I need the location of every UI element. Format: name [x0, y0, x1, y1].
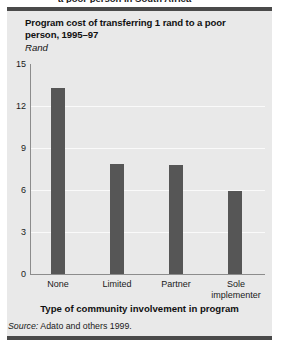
bottom-rule	[7, 336, 272, 340]
y-tick-label: 0	[4, 270, 26, 279]
source-label: Source:	[8, 321, 38, 331]
x-tick-label-limited: Limited	[89, 279, 145, 290]
gridline-9	[30, 148, 265, 149]
plot-area	[30, 64, 265, 275]
y-axis-line	[30, 64, 31, 275]
clipped-caption-text: a poor person in South Africa	[58, 0, 278, 3]
x-tick-label-implementer: implementer	[207, 290, 265, 301]
bar-limited	[110, 164, 124, 274]
bar-none	[51, 88, 65, 274]
y-tick-label: 9	[4, 144, 26, 153]
source-note: Source: Adato and others 1999.	[8, 321, 132, 331]
bar-sole-implementer	[228, 191, 242, 274]
chart-title: Program cost of transferring 1 rand to a…	[25, 17, 257, 40]
y-tick-label: 12	[4, 102, 26, 111]
y-axis-unit-label: Rand	[25, 42, 48, 53]
figure-container: a poor person in South Africa Program co…	[0, 0, 288, 350]
x-tick-label-sole: Sole	[207, 279, 265, 290]
x-tick-label-partner: Partner	[148, 279, 204, 290]
gridline-12	[30, 106, 265, 107]
y-tick-label: 3	[4, 228, 26, 237]
x-axis-title: Type of community involvement in program	[7, 303, 272, 314]
y-tick-label: 6	[4, 186, 26, 195]
bar-partner	[169, 165, 183, 274]
y-axis-tick-labels: 15 12 9 6 3 0	[0, 64, 26, 275]
source-citation: Adato and others 1999.	[40, 321, 131, 331]
x-axis-line	[30, 274, 265, 275]
y-tick-label: 15	[4, 60, 26, 69]
x-tick-label-none: None	[30, 279, 86, 290]
